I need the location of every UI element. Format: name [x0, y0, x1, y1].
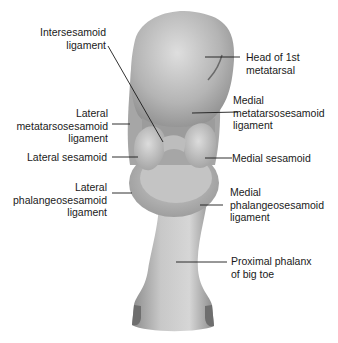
label-lateral-phalangeosesamoid-ligament: Lateral phalangeosesamoid ligament: [13, 181, 107, 219]
label-lateral-sesamoid: Lateral sesamoid: [27, 151, 107, 164]
label-proximal-phalanx: Proximal phalanx of big toe: [231, 255, 312, 280]
label-medial-metatarsosesamoid-ligament: Medial metatarsosesamoid ligament: [233, 94, 325, 132]
label-head-1st-metatarsal: Head of 1st metatarsal: [246, 51, 300, 76]
label-intersesamoid-ligament: Intersesamoid ligament: [40, 26, 106, 51]
label-medial-sesamoid: Medial sesamoid: [232, 152, 311, 165]
label-medial-phalangeosesamoid-ligament: Medial phalangeosesamoid ligament: [230, 186, 324, 224]
label-lateral-metatarsosesamoid-ligament: Lateral metatarsosesamoid ligament: [16, 107, 108, 145]
